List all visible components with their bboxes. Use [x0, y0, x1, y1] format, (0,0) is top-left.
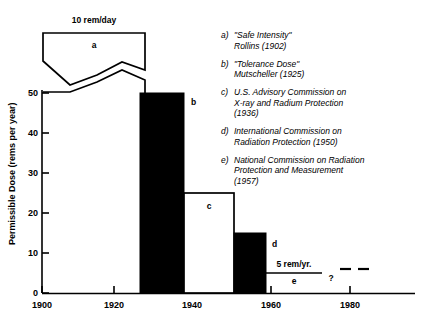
chart-legend: a) "Safe Intensity" Rollins (1902) b) "T… — [221, 30, 417, 194]
series-e-letter: e — [292, 276, 297, 286]
y-axis-title: Permissible Dose (rems per year) — [7, 102, 17, 245]
x-tick-label-1940: 1940 — [182, 300, 202, 310]
uncertainty-question-mark: ? — [328, 273, 333, 283]
series-a-letter: a — [92, 40, 97, 50]
y-tick-label-40: 40 — [28, 128, 38, 138]
y-axis-ticks — [42, 93, 49, 293]
legend-key-d: d) — [221, 126, 234, 137]
y-tick-label-0: 0 — [33, 288, 38, 298]
legend-key-b: b) — [221, 59, 234, 70]
x-tick-label-1900: 1900 — [32, 300, 52, 310]
legend-item-c: c) U.S. Advisory Commission on X-ray and… — [221, 87, 417, 119]
series-e-value-label: 5 rem/yr. — [277, 259, 312, 269]
y-tick-label-30: 30 — [28, 168, 38, 178]
legend-key-e: e) — [221, 155, 234, 166]
legend-text-e: National Commission on Radiation Protect… — [234, 155, 364, 187]
chart-figure: 50 40 30 20 10 0 1900 1920 1940 1960 198… — [0, 0, 423, 330]
legend-item-d: d) International Commission on Radiation… — [221, 126, 417, 147]
y-tick-label-10: 10 — [28, 248, 38, 258]
x-tick-label-1980: 1980 — [340, 300, 360, 310]
y-tick-label-20: 20 — [28, 208, 38, 218]
series-c-letter: c — [207, 201, 212, 211]
legend-text-b: "Tolerance Dose" Mutscheller (1925) — [234, 59, 304, 80]
band-a-title: 10 rem/day — [72, 15, 117, 25]
legend-item-a: a) "Safe Intensity" Rollins (1902) — [221, 30, 417, 51]
legend-item-e: e) National Commission on Radiation Prot… — [221, 155, 417, 187]
legend-key-c: c) — [221, 87, 234, 98]
series-d-letter: d — [272, 239, 277, 249]
x-tick-label-1960: 1960 — [261, 300, 281, 310]
series-d-bar — [234, 233, 266, 293]
y-tick-label-50: 50 — [28, 88, 38, 98]
legend-text-d: International Commission on Radiation Pr… — [234, 126, 342, 147]
legend-text-a: "Safe Intensity" Rollins (1902) — [234, 30, 292, 51]
legend-key-a: a) — [221, 30, 234, 41]
legend-item-b: b) "Tolerance Dose" Mutscheller (1925) — [221, 59, 417, 80]
series-b-letter: b — [191, 97, 196, 107]
x-tick-label-1920: 1920 — [104, 300, 124, 310]
legend-text-c: U.S. Advisory Commission on X-ray and Ra… — [234, 87, 346, 119]
series-b-bar — [140, 93, 184, 293]
